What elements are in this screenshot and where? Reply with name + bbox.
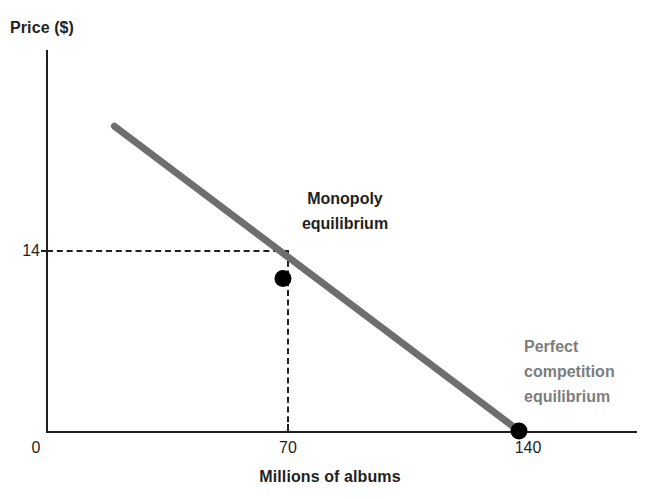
perfect-competition-annotation-line-2: competition (524, 359, 654, 384)
quantity-guide-dashed-line (287, 251, 289, 432)
demand-curve-line (114, 126, 519, 431)
y-axis-tick-label-14: 14 (16, 242, 40, 260)
x-axis-title: Millions of albums (0, 468, 660, 486)
x-axis-tick-label-0: 0 (26, 439, 46, 457)
x-axis-tick-label-70: 70 (268, 439, 308, 457)
monopoly-annotation-line-2: equilibrium (245, 211, 445, 236)
price-guide-dashed-line (47, 250, 289, 252)
y-axis-title: Price ($) (10, 19, 74, 37)
chart-container: Price ($) 14 0 70 140 Monopoly equilibri… (0, 0, 660, 499)
perfect-competition-annotation-line-1: Perfect (524, 334, 654, 359)
y-axis-line (46, 50, 48, 433)
monopoly-annotation-line-1: Monopoly (245, 186, 445, 211)
perfect-competition-equilibrium-annotation: Perfect competition equilibrium (524, 334, 654, 409)
x-axis-tick-label-140: 140 (503, 439, 553, 457)
monopoly-equilibrium-annotation: Monopoly equilibrium (245, 186, 445, 236)
perfect-competition-annotation-line-3: equilibrium (524, 384, 654, 409)
x-axis-line (46, 431, 637, 433)
